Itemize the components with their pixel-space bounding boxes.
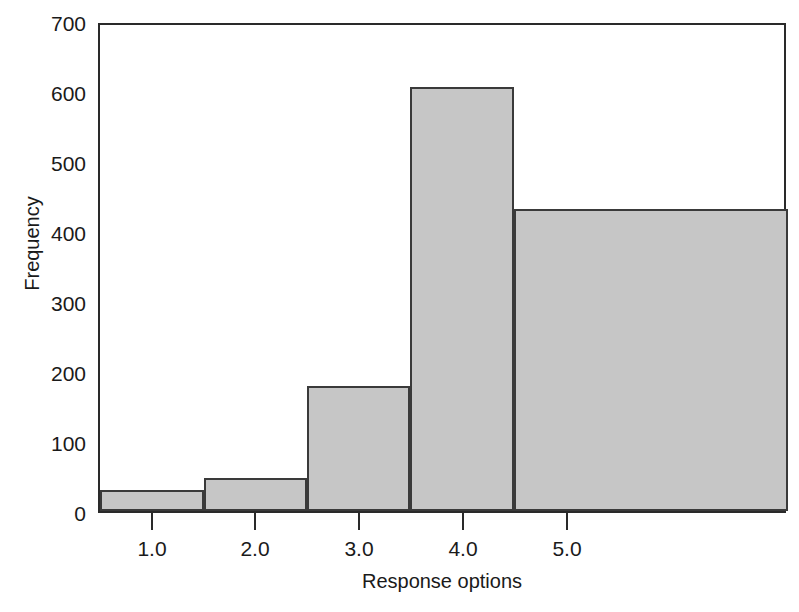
x-tick-mark-5 (566, 513, 568, 530)
y-tick-label-100: 100 (34, 433, 86, 454)
bar-response-4 (410, 87, 514, 511)
x-axis-title: Response options (98, 570, 786, 593)
caption-strip (0, 601, 799, 612)
x-tick-label-1: 1.0 (117, 537, 187, 561)
x-tick-label-4: 4.0 (428, 537, 498, 561)
plot-area (98, 23, 786, 513)
bar-response-3 (307, 386, 410, 511)
bar-response-5 (514, 209, 788, 511)
x-tick-mark-4 (462, 513, 464, 530)
y-axis-title: Frequency (21, 164, 44, 324)
bars-layer (100, 25, 784, 511)
x-tick-label-3: 3.0 (324, 537, 394, 561)
x-tick-mark-3 (358, 513, 360, 530)
y-tick-label-200: 200 (34, 363, 86, 384)
x-tick-label-5: 5.0 (532, 537, 602, 561)
y-tick-label-700: 700 (34, 13, 86, 34)
bar-response-1 (100, 490, 204, 511)
x-tick-mark-2 (254, 513, 256, 530)
histogram-figure: 700 600 500 400 300 200 100 0 Frequency … (0, 0, 799, 612)
x-tick-label-2: 2.0 (220, 537, 290, 561)
y-tick-label-0: 0 (34, 503, 86, 524)
y-tick-label-600: 600 (34, 83, 86, 104)
bar-response-2 (204, 478, 307, 511)
x-tick-mark-1 (151, 513, 153, 530)
